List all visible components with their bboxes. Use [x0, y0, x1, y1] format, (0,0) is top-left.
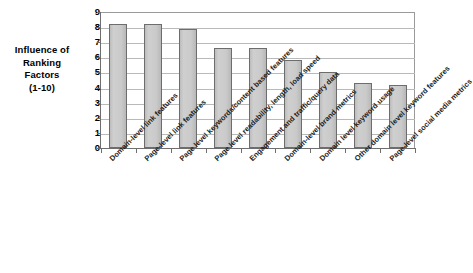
y-axis-tick-mark [97, 27, 101, 28]
x-axis-tick-mark [206, 149, 207, 153]
y-axis-ticks: 0123456789 [80, 0, 100, 273]
bar [249, 48, 267, 148]
y-axis-tick-mark [97, 103, 101, 104]
y-axis-tick-mark [97, 12, 101, 13]
y-axis-title-line-2: Ranking [2, 57, 82, 70]
x-axis-tick-mark [275, 149, 276, 153]
y-axis-tick-mark [97, 118, 101, 119]
x-axis-tick-mark [380, 149, 381, 153]
x-axis-tick-mark [136, 149, 137, 153]
y-axis-title-line-1: Influence of [2, 44, 82, 57]
y-axis-tick-mark [97, 72, 101, 73]
y-axis-tick-mark [97, 88, 101, 89]
y-axis-title-line-4: (1-10) [2, 82, 82, 95]
y-axis-tick-mark [97, 133, 101, 134]
x-axis-tick-mark [241, 149, 242, 153]
bar [109, 24, 127, 148]
y-axis-tick-mark [97, 42, 101, 43]
x-axis-tick-mark [415, 149, 416, 153]
x-axis-tick-mark [101, 149, 102, 153]
bar [214, 48, 232, 148]
y-axis-title: Influence of Ranking Factors (1-10) [2, 44, 82, 94]
x-axis-tick-mark [310, 149, 311, 153]
y-axis-tick-mark [97, 57, 101, 58]
y-axis-title-line-3: Factors [2, 69, 82, 82]
y-axis-line [100, 12, 101, 149]
x-axis-tick-mark [345, 149, 346, 153]
x-axis-tick-mark [171, 149, 172, 153]
